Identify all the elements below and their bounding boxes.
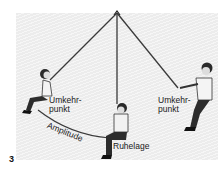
pendulum-swing-illustration: [0, 0, 224, 173]
rope-right: [117, 13, 178, 88]
figure-number: 3: [9, 154, 14, 164]
label-left-turning-point-line2: punkt: [49, 105, 82, 114]
label-right-turning-point: Umkehr- punkt: [158, 96, 191, 114]
swinger-left-figure: [22, 69, 52, 114]
label-left-turning-point: Umkehr- punkt: [49, 96, 82, 114]
rope-left: [50, 13, 117, 80]
label-right-turning-point-line2: punkt: [158, 105, 191, 114]
label-rest-position: Ruhelage: [113, 142, 149, 151]
